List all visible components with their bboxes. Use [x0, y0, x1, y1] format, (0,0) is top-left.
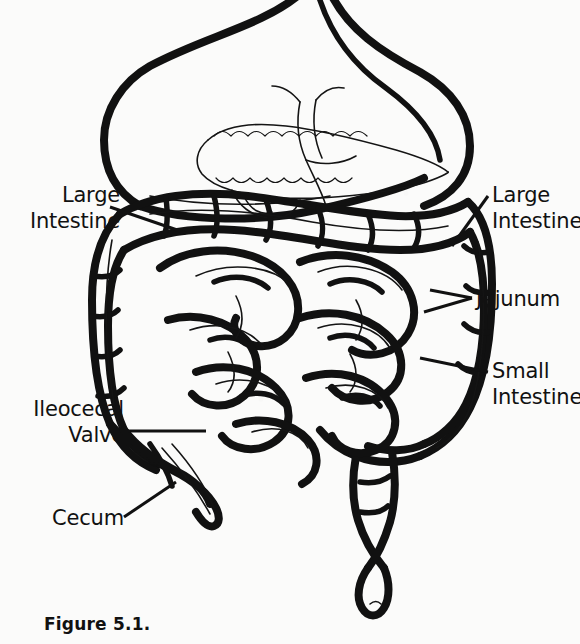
figure-container: .hk{fill:none;stroke:#111111;stroke-widt… [0, 0, 580, 644]
label-jejunum: Jejunum [476, 286, 580, 312]
label-small-intestine: Small Intestine [492, 358, 580, 410]
label-large-intestine-left: Large Intestine [8, 182, 120, 234]
label-ileocecal-valve: Ileocecal Valve [0, 396, 124, 448]
figure-caption: Figure 5.1. [44, 614, 150, 634]
label-large-intestine-right: Large Intestine [492, 182, 578, 234]
label-cecum: Cecum [12, 505, 124, 531]
digestive-system-illustration: .hk{fill:none;stroke:#111111;stroke-widt… [0, 0, 580, 644]
